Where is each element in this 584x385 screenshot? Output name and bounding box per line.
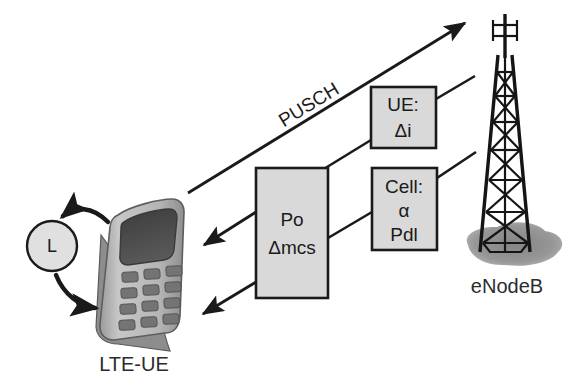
loop-circle: L xyxy=(27,221,77,271)
po-box-to-cell-box-line xyxy=(328,212,372,238)
loop-arrow-to-phone xyxy=(56,275,95,308)
ue-box-to-tower-line xyxy=(436,76,475,99)
diagram-svg: PUSCH Po Δmcs xyxy=(0,0,584,385)
po-box-to-ue-arrow-upper xyxy=(204,212,256,245)
po-box-line-2: Δmcs xyxy=(268,237,316,258)
po-box-line-1: Po xyxy=(280,209,303,230)
lte-ue-label: LTE-UE xyxy=(99,353,169,375)
loop-circle-label: L xyxy=(47,236,57,256)
ue-params-box-line-1: UE: xyxy=(387,94,419,115)
cell-params-box-line-3: Pdl xyxy=(390,224,417,245)
cell-params-box[interactable]: Cell: α Pdl xyxy=(372,168,437,250)
cell-box-to-tower-line xyxy=(437,152,476,178)
enodeb-tower-icon xyxy=(480,14,530,252)
cell-params-box-line-2: α xyxy=(399,200,410,221)
cell-params-box-line-1: Cell: xyxy=(385,176,423,197)
po-box[interactable]: Po Δmcs xyxy=(256,168,328,298)
loop-arrow-to-circle xyxy=(63,209,108,222)
ue-params-box[interactable]: UE: Δi xyxy=(371,87,436,148)
ue-params-box-line-2: Δi xyxy=(395,120,412,141)
diagram-canvas: PUSCH Po Δmcs xyxy=(0,0,584,385)
po-box-to-ue-arrow-lower xyxy=(203,282,256,314)
enodeb-label: eNodeB xyxy=(471,275,543,297)
